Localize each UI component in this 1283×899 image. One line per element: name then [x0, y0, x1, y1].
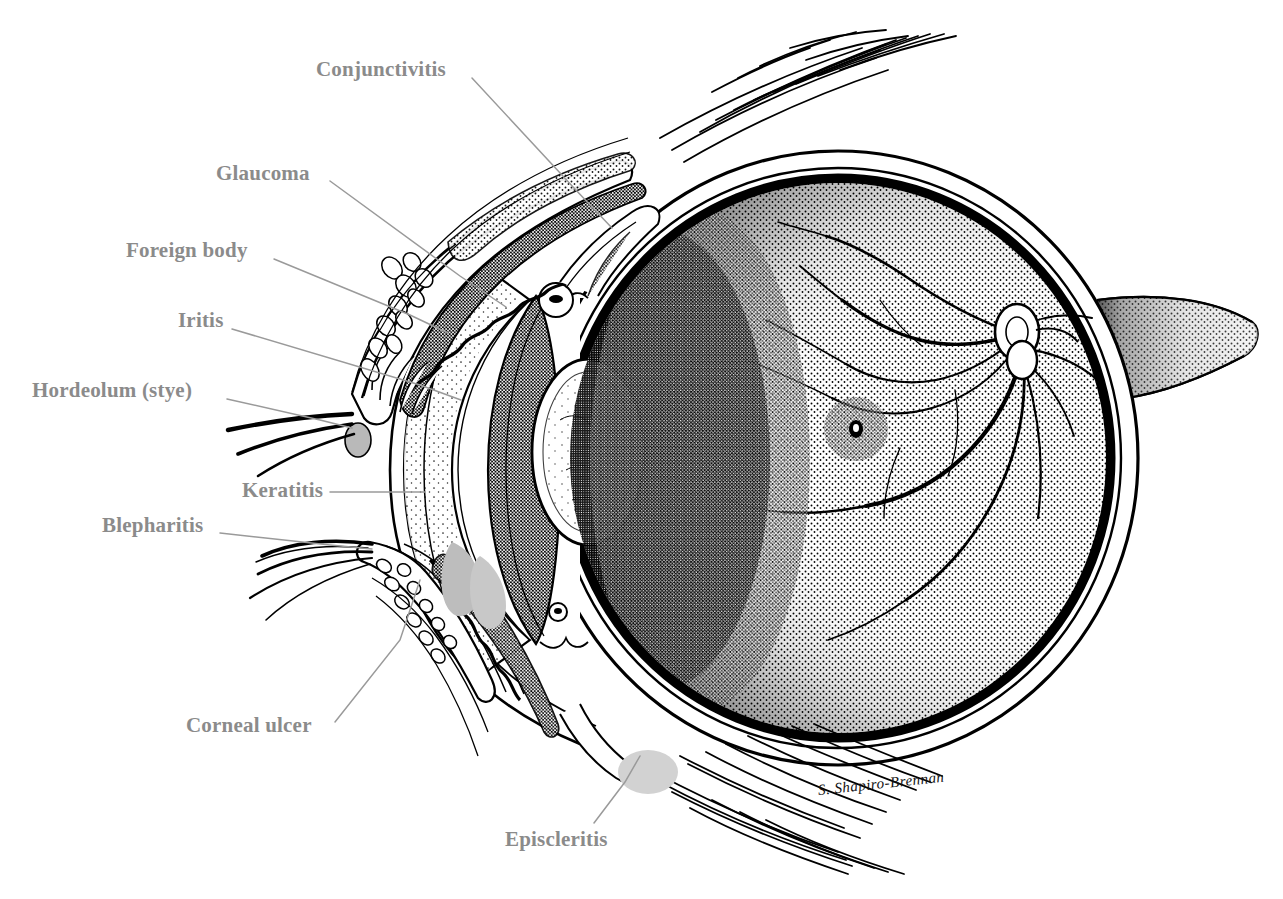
label-hordeolum-stye: Hordeolum (stye) [32, 380, 192, 401]
macula-fovea [824, 397, 888, 461]
label-episcleritis: Episcleritis [505, 829, 608, 850]
label-foreign-body: Foreign body [126, 240, 248, 261]
hordeolum-mass [345, 423, 371, 457]
label-keratitis: Keratitis [242, 480, 323, 501]
label-glaucoma: Glaucoma [216, 163, 310, 184]
label-iritis: Iritis [178, 310, 224, 331]
figure-page: RED EYE [0, 0, 1283, 899]
label-conjunctivitis: Conjunctivitis [316, 59, 446, 80]
eye-anatomy-illustration [0, 0, 1283, 899]
label-blepharitis: Blepharitis [102, 515, 203, 536]
episcleritis-patch [618, 750, 678, 794]
label-corneal-ulcer: Corneal ulcer [186, 715, 312, 736]
